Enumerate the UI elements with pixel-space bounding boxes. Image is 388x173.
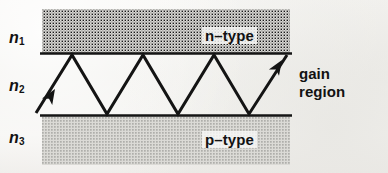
n1-symbol: n: [9, 29, 19, 46]
zigzag-ray-path: [36, 55, 287, 114]
refractive-index-label-n2: n2: [9, 78, 24, 95]
p-type-layer-label: p–type: [202, 131, 257, 148]
n1-subscript: 1: [19, 36, 24, 47]
n2-subscript: 2: [19, 84, 24, 95]
n-type-layer-label: n–type: [202, 27, 257, 44]
gain-region-label-line2: region: [299, 83, 345, 101]
refractive-index-label-n3: n3: [9, 130, 24, 147]
gain-region-label: gain region: [299, 65, 345, 100]
refractive-index-label-n1: n1: [9, 30, 24, 47]
gain-region-label-line1: gain: [299, 65, 345, 83]
laser-gain-region-figure: n1 n2 n3 n–type p–type gain region: [0, 0, 388, 173]
n3-subscript: 3: [19, 136, 24, 147]
n2-symbol: n: [9, 77, 19, 94]
n3-symbol: n: [9, 129, 19, 146]
